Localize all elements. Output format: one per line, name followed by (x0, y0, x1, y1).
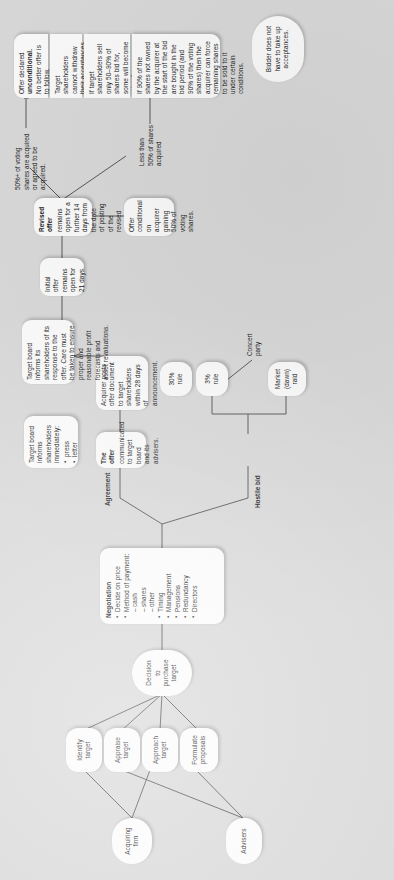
node-revised-offer[interactable]: Revised offer remains open for a further… (34, 198, 92, 236)
list-item: Timing (157, 553, 165, 612)
node-approach-target[interactable]: Approach target (142, 728, 178, 772)
node-identify-target[interactable]: Identify target (66, 728, 102, 772)
node-thirty-percent-rule-label: 30% rule (168, 372, 185, 385)
node-approach-target-label: Approach target (152, 736, 169, 764)
node-ninety-percent-rule-label: If 90% of the shares not owned by the ac… (136, 38, 246, 94)
node-ninety-percent-rule[interactable]: If 90% of the shares not owned by the ac… (132, 34, 220, 98)
list-item: Management (165, 553, 173, 612)
list-item: Directors (191, 553, 199, 612)
edge-label-less-than-fifty: Less than 50% of shares acquired (130, 124, 163, 166)
node-advisers[interactable]: Advisers (226, 818, 262, 864)
edge-label-agreement: Agreement (104, 473, 112, 506)
node-target-board-response[interactable]: Target board informs its shareholders of… (22, 320, 74, 384)
node-acquiring-firm[interactable]: Acquiring firm (112, 818, 152, 864)
node-revised-offer-header: Revised offer (38, 202, 55, 232)
edge-label-fifty-percent-plus: 50%+ of voting shares are acquired or ag… (6, 130, 48, 190)
node-target-board-informs-lead: Target board informs shareholders immedi… (28, 420, 62, 463)
node-three-percent-rule-label: 3% rule (204, 373, 221, 384)
node-offer-unconditional-lead: Offer declared (18, 38, 26, 94)
list-item: Method of payment: (123, 553, 131, 612)
node-decision-to-purchase[interactable]: Decision to purchase target (132, 650, 192, 696)
node-cannot-withdraw-label: Target shareholders cannot withdraw thei… (54, 38, 88, 94)
node-revised-offer-body: remains open for a further 14 days from … (56, 202, 132, 232)
node-minority-shareholders[interactable]: If target shareholders sell only 50–90% … (84, 34, 130, 98)
list-item: letter (71, 420, 79, 457)
list-item: Redundancy (182, 553, 190, 612)
node-cannot-withdraw[interactable]: Target shareholders cannot withdraw thei… (50, 34, 82, 98)
node-appraise-target[interactable]: Appraise target (104, 728, 140, 772)
list-item: cash (131, 553, 139, 612)
node-offer-conditional-label: Offer conditional on acquirer gaining 50… (128, 200, 196, 232)
node-thirty-percent-rule[interactable]: 30% rule (160, 362, 192, 396)
node-the-offer-header: The offer (100, 436, 117, 464)
node-offer-conditional[interactable]: Offer conditional on acquirer gaining 50… (124, 198, 174, 236)
node-appraise-target-label: Appraise target (114, 737, 131, 763)
edge-label-fifty-percent-plus-text: 50%+ of voting shares are acquired or ag… (14, 134, 46, 190)
node-decision-to-purchase-label: Decision to purchase target (145, 659, 179, 686)
node-identify-target-label: Identify target (76, 739, 93, 760)
node-negotiation-header: Negotiation (105, 553, 113, 618)
diagram-canvas: Acquiring firm Advisers Identify target … (0, 0, 394, 880)
node-the-offer-body: communicated to target board and its adv… (118, 436, 160, 464)
node-offer-unconditional[interactable]: Offer declared unconditional. No better … (14, 34, 48, 98)
node-three-percent-rule[interactable]: 3% rule (196, 362, 228, 396)
node-target-board-informs[interactable]: Target board informs shareholders immedi… (24, 416, 78, 468)
node-bidder-no-acceptances-label: Bidder does not have to take up acceptan… (265, 21, 290, 77)
node-advisers-label: Advisers (240, 828, 248, 853)
list-item: Pensions (174, 553, 182, 612)
node-acquiring-firm-label: Acquiring firm (124, 827, 141, 855)
node-negotiation[interactable]: Negotiation Decide on price Method of pa… (100, 548, 224, 624)
edge-label-hostile-bid: Hostile bid (254, 475, 262, 508)
node-negotiation-list: Decide on price Method of payment: cash … (114, 553, 199, 618)
node-initial-offer-label: Initial offer remains open for 21 days. (44, 262, 86, 292)
node-market-raid-label: Market (dawn) raid (274, 366, 299, 392)
node-target-board-informs-list: press letter (63, 420, 80, 463)
node-offer-unconditional-bold: unconditional. (26, 38, 34, 94)
node-the-offer[interactable]: The offer communicated to target board a… (96, 432, 146, 468)
node-target-board-response-label: Target board informs its shareholders of… (26, 324, 111, 380)
edge-label-less-than-fifty-text: Less than 50% of shares acquired (138, 125, 162, 166)
edge-label-concert-party: Concert party (246, 334, 263, 356)
node-initial-offer[interactable]: Initial offer remains open for 21 days. (40, 258, 84, 296)
list-item: other (148, 553, 156, 612)
node-market-raid[interactable]: Market (dawn) raid (268, 362, 306, 396)
list-item: Decide on price (114, 553, 122, 612)
list-item: press (63, 420, 71, 457)
node-bidder-no-acceptances[interactable]: Bidder does not have to take up acceptan… (252, 16, 304, 82)
node-formulate-proposals[interactable]: Formulate proposals (180, 728, 218, 772)
list-item: shares (140, 553, 148, 612)
node-formulate-proposals-label: Formulate proposals (191, 735, 208, 765)
